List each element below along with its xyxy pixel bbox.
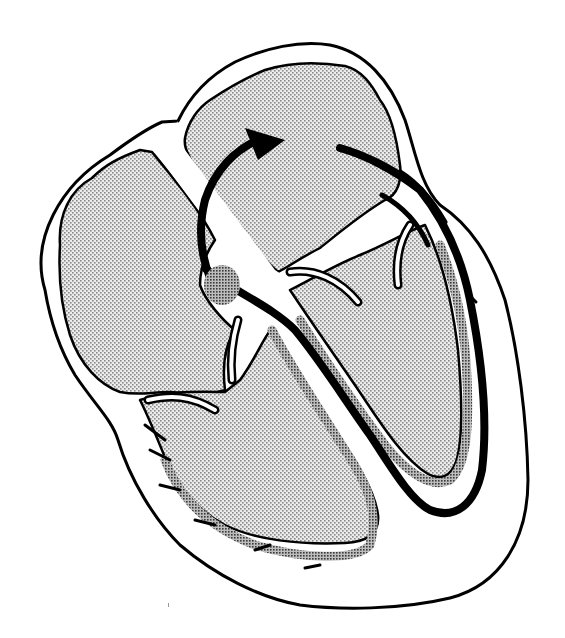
- stray-mark: [168, 603, 169, 607]
- heart-diagram: [0, 0, 565, 638]
- node-blob: [204, 265, 240, 305]
